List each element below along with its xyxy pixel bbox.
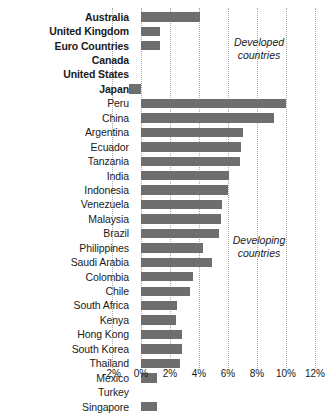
bar-layer: [0, 82, 328, 96]
bar: [141, 315, 176, 324]
chart-row: Venezuela: [0, 198, 328, 212]
bar: [141, 229, 219, 238]
bar-layer: [0, 212, 328, 226]
x-tick-label: 12%: [305, 368, 325, 380]
bar-layer: [0, 299, 328, 313]
chart-row: India: [0, 169, 328, 183]
x-tick-label: 2%: [163, 368, 177, 380]
bar-layer: [0, 284, 328, 298]
bar: [141, 12, 200, 21]
chart-row: South Africa: [0, 299, 328, 313]
chart-row: China: [0, 111, 328, 125]
bar: [141, 272, 193, 281]
chart-row: Malaysia: [0, 212, 328, 226]
chart-row: Singapore: [0, 400, 328, 414]
chart-rows: AustraliaUnited KingdomEuro CountriesCan…: [0, 10, 328, 414]
x-axis: -2%0%2%4%6%8%10%12%: [0, 368, 328, 388]
bar: [141, 359, 180, 368]
bar: [141, 27, 160, 36]
bar: [141, 258, 212, 267]
bar-layer: [0, 400, 328, 414]
chart-row: United States: [0, 68, 328, 82]
bar: [129, 84, 141, 93]
chart-row: Chile: [0, 284, 328, 298]
bar: [141, 99, 286, 108]
chart-row: Indonesia: [0, 183, 328, 197]
bar-layer: [0, 68, 328, 82]
annotation-developing-countries: Developing countries: [216, 234, 302, 259]
x-tick-label: -2%: [103, 368, 121, 380]
x-tick-label: 6%: [221, 368, 235, 380]
bar: [141, 330, 182, 339]
bar-layer: [0, 154, 328, 168]
bar: [141, 344, 182, 353]
chart-row: Kenya: [0, 313, 328, 327]
chart-row: South Korea: [0, 342, 328, 356]
bar: [141, 200, 222, 209]
chart-row: Tanzania: [0, 154, 328, 168]
bar: [141, 287, 190, 296]
bar-layer: [0, 111, 328, 125]
bar-layer: [0, 198, 328, 212]
bar-layer: [0, 183, 328, 197]
bar: [141, 243, 203, 252]
bar: [141, 402, 157, 411]
bar-layer: [0, 270, 328, 284]
bar-layer: [0, 10, 328, 24]
bar: [141, 113, 274, 122]
x-tick-label: 10%: [276, 368, 296, 380]
bar-layer: [0, 313, 328, 327]
chart-row: Japan: [0, 82, 328, 96]
bar: [141, 301, 177, 310]
bar-layer: [0, 342, 328, 356]
bar-layer: [0, 169, 328, 183]
chart-row: Peru: [0, 97, 328, 111]
bar: [141, 128, 243, 137]
bar: [141, 214, 221, 223]
bar-layer: [0, 126, 328, 140]
bar: [141, 157, 240, 166]
annotation-developed-countries: Developed countries: [216, 36, 302, 61]
bar-layer: [0, 97, 328, 111]
bar-layer: [0, 328, 328, 342]
chart-row: Hong Kong: [0, 328, 328, 342]
bar: [141, 142, 241, 151]
bar-layer: [0, 140, 328, 154]
x-tick-label: 8%: [250, 368, 264, 380]
bar: [141, 171, 229, 180]
bar: [141, 185, 228, 194]
x-tick-label: 0%: [134, 368, 148, 380]
bar: [141, 41, 160, 50]
chart-row: Ecuador: [0, 140, 328, 154]
chart-row: Australia: [0, 10, 328, 24]
x-tick-label: 4%: [192, 368, 206, 380]
chart-row: Argentina: [0, 126, 328, 140]
chart-row: Colombia: [0, 270, 328, 284]
